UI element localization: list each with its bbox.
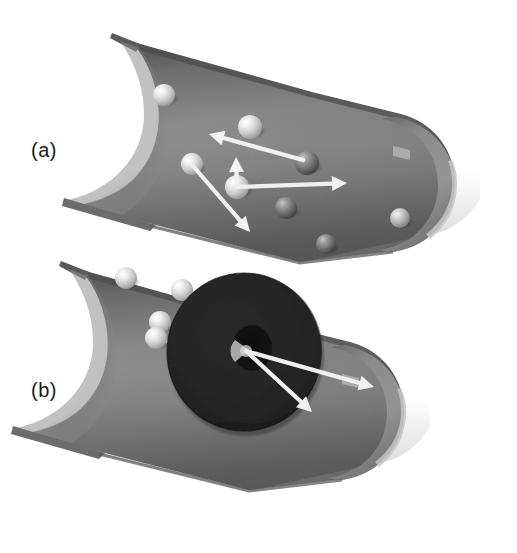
panel-label-a: (a) <box>31 139 57 162</box>
panel-a-tube <box>60 33 480 280</box>
particle <box>115 267 139 289</box>
panel-b-tube <box>10 261 430 508</box>
tube-a-body <box>60 33 480 280</box>
figure-canvas: (a) (b) <box>0 0 517 553</box>
collimator-disk <box>167 273 324 436</box>
panel-label-b: (b) <box>31 379 57 402</box>
tube-diagram-svg <box>0 0 517 553</box>
